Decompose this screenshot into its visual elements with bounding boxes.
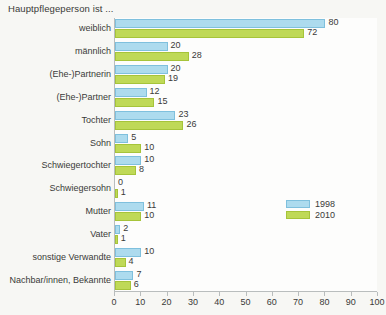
chart-row: (Ehe-)Partner1215 [0,87,386,110]
x-axis-tick-label: 10 [135,297,145,307]
chart-row: sonstige Verwandte104 [0,246,386,269]
bar-value-label: 23 [178,109,188,119]
x-axis-tick [140,292,141,296]
bar-1998 [115,202,144,211]
chart-row: Tochter2326 [0,109,386,132]
bar-chart: Hauptpflegeperson ist ... weiblich8072mä… [0,0,386,315]
category-label: Schwiegertochter [0,160,111,170]
bar-2010 [115,189,118,198]
x-axis-tick-label: 70 [293,297,303,307]
bar-value-label: 10 [144,246,154,256]
bar-2010 [115,212,141,221]
bar-group: 72 [115,29,378,38]
bar-group: 26 [115,121,378,130]
legend-label: 1998 [315,199,335,209]
category-label: Schwiegersohn [0,183,111,193]
category-label: Sohn [0,138,111,148]
bar-value-label: 1 [121,187,126,197]
bar-group: 19 [115,75,378,84]
chart-legend: 19982010 [286,199,356,221]
legend-label: 2010 [315,210,335,220]
bar-group: 4 [115,258,378,267]
category-label: weiblich [0,23,111,33]
bar-value-label: 20 [171,63,181,73]
bar-group: 15 [115,98,378,107]
x-axis-tick [351,292,352,296]
x-axis-tick [167,292,168,296]
bar-group: 6 [115,281,378,290]
category-label: Vater [0,229,111,239]
bar-1998 [115,65,168,74]
bar-group: 10 [115,156,378,165]
bar-2010 [115,235,118,244]
x-axis-tick [377,292,378,296]
category-label: (Ehe-)Partnerin [0,69,111,79]
bar-value-label: 5 [131,132,136,142]
chart-row: Nachbar/innen, Bekannte76 [0,269,386,292]
bar-group: 5 [115,134,378,143]
bar-value-label: 1 [121,233,126,243]
bar-value-label: 0 [118,177,123,187]
bar-group: 10 [115,144,378,153]
bar-group: 10 [115,248,378,257]
chart-row: Vater21 [0,224,386,247]
legend-swatch-icon [286,211,310,219]
bar-value-label: 7 [136,269,141,279]
x-axis-tick-label: 20 [162,297,172,307]
bar-value-label: 4 [129,256,134,266]
chart-row: Sohn510 [0,132,386,155]
chart-title: Hauptpflegeperson ist ... [8,3,113,14]
x-axis-tick [298,292,299,296]
bar-1998 [115,156,141,165]
bar-value-label: 11 [147,200,156,210]
bar-2010 [115,98,154,107]
bar-1998 [115,42,168,51]
x-axis-tick [272,292,273,296]
x-axis-tick [246,292,247,296]
bar-2010 [115,52,189,61]
x-axis-tick-label: 90 [346,297,356,307]
chart-row: Schwiegertochter108 [0,155,386,178]
chart-row: Schwiegersohn01 [0,178,386,201]
legend-swatch-icon [286,200,310,208]
x-axis-tick-label: 80 [319,297,329,307]
bar-1998 [115,111,175,120]
bar-2010 [115,75,165,84]
legend-item: 1998 [286,199,356,209]
bar-value-label: 8 [139,164,144,174]
bar-value-label: 19 [168,73,178,83]
bar-group: 28 [115,52,378,61]
bar-1998 [115,19,325,28]
x-axis-tick [324,292,325,296]
bar-group: 1 [115,189,378,198]
category-label: Nachbar/innen, Bekannte [0,275,111,285]
x-axis: 0102030405060708090100 [114,292,378,314]
x-axis-tick-label: 30 [188,297,198,307]
bar-2010 [115,144,141,153]
bar-group: 12 [115,88,378,97]
bar-value-label: 10 [144,154,154,164]
bar-group: 23 [115,111,378,120]
x-axis-tick-label: 40 [214,297,224,307]
bar-1998 [115,134,128,143]
bar-2010 [115,258,126,267]
bar-value-label: 80 [328,17,338,27]
bar-2010 [115,281,131,290]
chart-row: männlich2028 [0,41,386,64]
x-axis-tick [193,292,194,296]
bar-group: 20 [115,65,378,74]
bar-value-label: 28 [192,50,202,60]
bar-value-label: 12 [150,86,160,96]
bar-1998 [115,225,120,234]
bar-value-label: 2 [123,223,128,233]
legend-item: 2010 [286,210,356,220]
bar-group: 8 [115,166,378,175]
x-axis-tick [114,292,115,296]
bar-group: 0 [115,179,378,188]
bar-group: 7 [115,271,378,280]
category-label: sonstige Verwandte [0,252,111,262]
x-axis-tick-label: 50 [240,297,250,307]
bar-group: 2 [115,225,378,234]
bar-2010 [115,121,183,130]
bar-value-label: 6 [134,279,139,289]
